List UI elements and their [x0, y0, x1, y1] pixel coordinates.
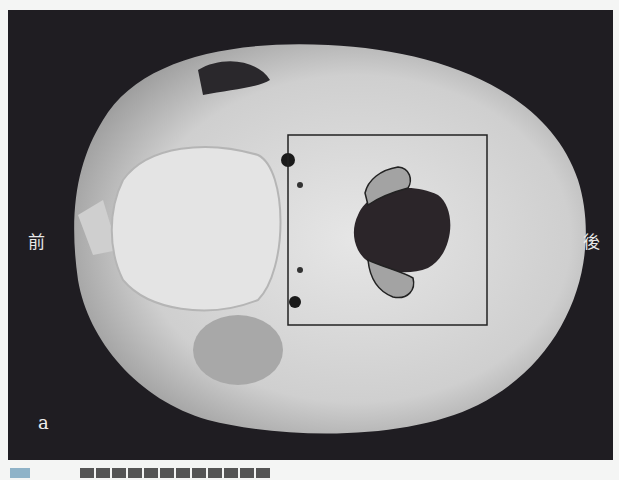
hard-palate	[112, 147, 281, 310]
skull-photograph: 前 後 a	[8, 10, 613, 460]
label-posterior: 後	[583, 228, 600, 253]
panel-letter: a	[38, 412, 49, 433]
figure-caption-truncated	[10, 468, 310, 480]
label-anterior: 前	[28, 228, 45, 253]
caption-marker	[10, 468, 30, 478]
caption-text-cutoff	[80, 468, 270, 478]
skull-inferior-view	[8, 10, 613, 460]
